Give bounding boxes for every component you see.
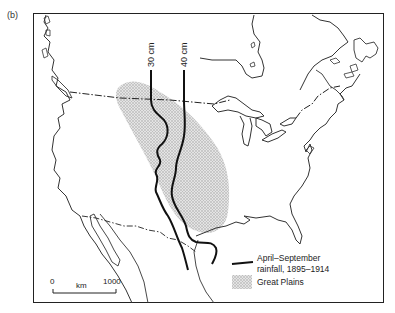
- pacific-coastline: [44, 15, 132, 303]
- labrador-coast: [300, 15, 348, 90]
- vancouver-island: [52, 76, 72, 98]
- isohyet-label-40cm: 40 cm: [179, 42, 189, 67]
- lake-michigan: [240, 116, 252, 146]
- lake-superior: [212, 96, 264, 118]
- scale-end-label: 1000: [103, 277, 121, 286]
- atlantic-coastline: [304, 74, 360, 152]
- us-canada-border: [70, 86, 340, 118]
- legend-great-plains-swatch: [232, 275, 252, 289]
- newfoundland: [354, 38, 378, 62]
- lake-ontario: [280, 118, 296, 126]
- legend-great-plains-label: Great Plains: [257, 277, 304, 288]
- lake-huron: [256, 118, 272, 136]
- isohyet-label-30cm: 30 cm: [146, 42, 156, 67]
- scale-start-label: 0: [50, 277, 54, 286]
- scale-unit-label: km: [76, 281, 87, 290]
- us-mexico-border: [82, 216, 196, 252]
- legend-rainfall-line-swatch: [232, 262, 253, 264]
- map-canvas: [0, 0, 395, 313]
- legend-rainfall-line2: rainfall, 1895–1914: [257, 264, 329, 275]
- legend-rainfall-line1: April–September: [257, 253, 320, 264]
